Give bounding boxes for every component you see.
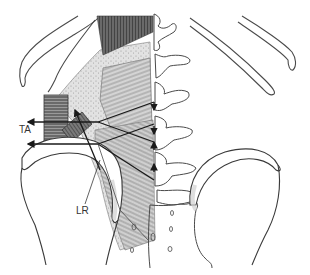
ilium-right bbox=[190, 149, 280, 265]
label-transversus-abdominis: TA bbox=[19, 125, 31, 135]
label-lateral-raphe: LR bbox=[76, 206, 89, 216]
ribs-right bbox=[190, 16, 296, 95]
lumbar-spine bbox=[154, 14, 196, 205]
sacrum bbox=[149, 201, 213, 268]
anatomical-figure bbox=[0, 0, 310, 275]
lr-leader-line bbox=[85, 160, 100, 204]
